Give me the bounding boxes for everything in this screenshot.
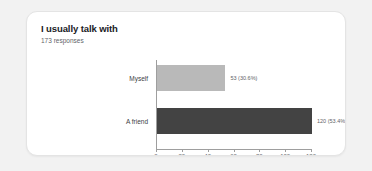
survey-result-card: I usually talk with 173 responses Myself… bbox=[26, 11, 346, 156]
x-tick-label: 120 bbox=[306, 153, 316, 156]
x-tick-label: 100 bbox=[280, 153, 290, 156]
category-label-myself: Myself bbox=[129, 75, 148, 82]
x-tick-mark bbox=[285, 149, 286, 152]
x-tick-mark bbox=[311, 149, 312, 152]
category-label-a-friend: A friend bbox=[126, 118, 148, 125]
value-label-a-friend: 120 (53.4%) bbox=[317, 118, 346, 124]
x-tick-label: 80 bbox=[256, 153, 263, 156]
x-tick-mark bbox=[156, 149, 157, 152]
card-header: I usually talk with 173 responses bbox=[41, 23, 333, 46]
value-label-myself: 53 (30.6%) bbox=[230, 75, 257, 81]
x-tick-mark bbox=[259, 149, 260, 152]
x-tick-mark bbox=[208, 149, 209, 152]
bar-row: Myself 53 (30.6%) bbox=[27, 65, 346, 91]
bar-chart: Myself 53 (30.6%) A friend 120 (53.4%) 0… bbox=[27, 56, 346, 156]
x-tick-label: 0 bbox=[154, 153, 157, 156]
x-axis-ticks: 020406080100120 bbox=[27, 149, 346, 156]
bar-a-friend[interactable] bbox=[157, 108, 312, 134]
response-count-label: 173 responses bbox=[41, 36, 333, 46]
screenshot-root: I usually talk with 173 responses Myself… bbox=[0, 0, 372, 171]
page-title: I usually talk with bbox=[41, 23, 333, 35]
bar-myself[interactable] bbox=[157, 65, 225, 91]
x-tick-mark bbox=[182, 149, 183, 152]
x-tick-label: 20 bbox=[178, 153, 185, 156]
x-tick-label: 40 bbox=[204, 153, 211, 156]
bar-row: A friend 120 (53.4%) bbox=[27, 108, 346, 134]
x-tick-label: 60 bbox=[230, 153, 237, 156]
x-tick-mark bbox=[234, 149, 235, 152]
